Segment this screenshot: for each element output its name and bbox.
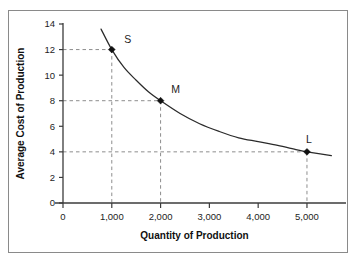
y-axis-title: Average Cost of Production [15, 48, 26, 180]
y-tick-label-10: 10 [44, 70, 55, 81]
cost-curve-plot: 0246810121401,0002,0003,0004,0005,000SML… [9, 11, 346, 251]
x-tick-label-4000: 4,000 [246, 211, 270, 222]
y-tick-label-4: 4 [50, 146, 55, 157]
x-tick-label-3000: 3,000 [197, 211, 221, 222]
y-tick-label-2: 2 [50, 172, 55, 183]
data-point-marker-S [108, 46, 115, 53]
y-tick-label-12: 12 [44, 44, 55, 55]
y-tick-label-0: 0 [50, 197, 55, 208]
x-tick-label-5000: 5,000 [295, 211, 319, 222]
data-point-label-M: M [171, 83, 180, 95]
x-tick-label-2000: 2,000 [149, 211, 173, 222]
x-axis-title: Quantity of Production [140, 230, 248, 241]
y-tick-label-6: 6 [50, 121, 55, 132]
cost-curve-path-0 [101, 29, 331, 156]
y-tick-label-8: 8 [50, 95, 55, 106]
x-tick-label-0: 0 [60, 211, 65, 222]
x-tick-label-1000: 1,000 [100, 211, 124, 222]
data-point-marker-L [304, 148, 311, 155]
y-tick-label-14: 14 [44, 18, 55, 29]
data-point-label-S: S [124, 33, 131, 45]
chart-figure: 0246810121401,0002,0003,0004,0005,000SML… [8, 10, 348, 253]
data-point-label-L: L [306, 133, 312, 145]
